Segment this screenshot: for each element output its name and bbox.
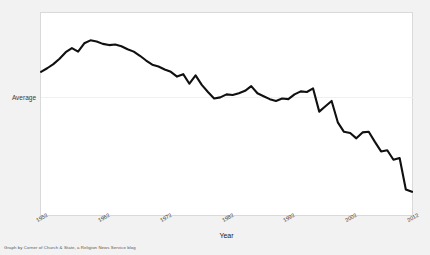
chart-credit: Graph by Corner of Church & State, a Rel… (4, 245, 136, 250)
y-axis-tick-label: Average (12, 94, 36, 101)
chart-figure: Average 1952196219721982199220022012 Yea… (0, 0, 430, 255)
x-axis-tick-1952: 1952 (35, 212, 49, 223)
x-axis-title: Year (40, 232, 413, 239)
average-gridline (41, 97, 413, 98)
plot-area (40, 12, 413, 216)
